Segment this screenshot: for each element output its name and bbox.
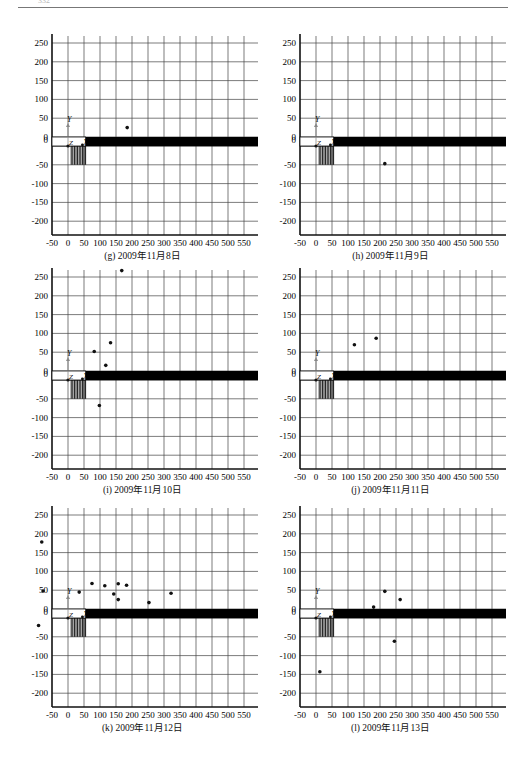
y-tick-label: 0 — [44, 135, 49, 145]
data-point — [398, 598, 402, 602]
x-tick-label: 200 — [373, 710, 387, 720]
y-tick-label: -50 — [36, 394, 48, 404]
x-tick-label: 150 — [357, 472, 371, 482]
chart-panel-j: YZX2502001501005000-50-100-150-200-50050… — [268, 264, 513, 504]
data-point — [120, 269, 124, 273]
y-tick-label: 100 — [283, 94, 297, 104]
pile-hatch — [319, 380, 333, 399]
data-point — [41, 589, 45, 593]
data-point — [98, 404, 102, 408]
scatter-plot: YZX2502001501005000-50-100-150-200-50050… — [268, 30, 513, 245]
x-tick-label: 0 — [66, 710, 71, 720]
origin-point — [66, 378, 69, 381]
chart-caption: (j) 2009年11月11日 — [268, 482, 513, 496]
x-tick-label: -50 — [294, 472, 306, 482]
x-tick-label: 450 — [205, 472, 219, 482]
y-tick-label: -100 — [280, 179, 297, 189]
z-axis-label: Z — [69, 611, 73, 619]
data-point — [125, 126, 129, 130]
y-tick-label: 50 — [287, 347, 297, 357]
z-axis-label: Z — [69, 139, 73, 147]
grid — [52, 508, 258, 707]
x-tick-label: 150 — [109, 238, 123, 248]
x-tick-label: 350 — [173, 238, 187, 248]
scatter-plot: YZX2502001501005000-50-100-150-200-50050… — [20, 502, 265, 717]
x-tick-label: 550 — [237, 710, 251, 720]
x-tick-label: 250 — [389, 472, 403, 482]
origin-point — [314, 144, 317, 147]
x-tick-label: 450 — [453, 472, 467, 482]
x-tick-label: 150 — [109, 710, 123, 720]
data-point — [125, 584, 129, 588]
y-tick-label: -50 — [284, 394, 296, 404]
y-axis-label: Y — [315, 115, 321, 124]
data-point — [383, 162, 387, 166]
x-tick-label: 200 — [125, 710, 139, 720]
data-point — [169, 591, 173, 595]
data-point — [318, 670, 322, 674]
x-tick-label: 500 — [469, 710, 483, 720]
y-tick-label: 50 — [287, 585, 297, 595]
x-tick-label: 0 — [314, 472, 319, 482]
y-tick-label: -200 — [32, 688, 49, 698]
x-tick-label: 250 — [141, 710, 155, 720]
origin-point — [329, 616, 332, 619]
y-tick-label: 100 — [283, 566, 297, 576]
pile-hatch — [319, 146, 333, 165]
data-points — [353, 336, 378, 346]
x-tick-label: 200 — [125, 238, 139, 248]
data-point — [383, 590, 387, 594]
x-tick-label: 100 — [93, 472, 107, 482]
x-tick-label: 100 — [341, 238, 355, 248]
y-tick-label: 50 — [287, 113, 297, 123]
y-tick-label: 200 — [283, 529, 297, 539]
x-tick-label: 50 — [328, 472, 338, 482]
x-tick-label: 200 — [125, 472, 139, 482]
origin-point — [81, 378, 84, 381]
origin-point — [314, 616, 317, 619]
x-tick-label: 150 — [357, 710, 371, 720]
x-tick-label: 0 — [314, 710, 319, 720]
chart-panel-g: YZX2502001501005000-50-100-150-200-50050… — [20, 30, 265, 270]
x-tick-label: 450 — [453, 710, 467, 720]
y-tick-label: 250 — [283, 38, 297, 48]
x-tick-label: 100 — [341, 710, 355, 720]
x-tick-label: 250 — [389, 238, 403, 248]
scatter-plot: YZX2502001501005000-50-100-150-200-50050… — [20, 30, 265, 245]
x-tick-label: 300 — [405, 472, 419, 482]
x-tick-label: 450 — [205, 238, 219, 248]
origin-point — [314, 378, 317, 381]
origin-point — [329, 144, 332, 147]
x-tick-label: 0 — [66, 472, 71, 482]
y-tick-label: -150 — [32, 431, 49, 441]
grid — [300, 508, 506, 707]
y-tick-label: 0 — [44, 607, 49, 617]
grid — [300, 36, 506, 235]
x-tick-label: 100 — [93, 238, 107, 248]
grid — [52, 36, 258, 235]
data-point — [92, 350, 96, 354]
data-point — [112, 592, 116, 596]
origin-point — [66, 144, 69, 147]
y-tick-label: -100 — [32, 179, 49, 189]
x-tick-label: 50 — [80, 710, 90, 720]
y-tick-label: 250 — [283, 272, 297, 282]
x-tick-label: 350 — [173, 710, 187, 720]
x-tick-label: 500 — [469, 238, 483, 248]
z-axis-label: Z — [317, 611, 321, 619]
y-tick-label: 50 — [39, 347, 49, 357]
x-tick-label: 350 — [421, 710, 435, 720]
y-tick-label: 0 — [44, 369, 49, 379]
y-axis-label: Y — [67, 587, 73, 596]
x-tick-label: 50 — [80, 472, 90, 482]
x-tick-label: 0 — [66, 238, 71, 248]
y-axis-label: Y — [315, 349, 321, 358]
y-tick-label: 0 — [292, 135, 297, 145]
x-tick-label: 550 — [485, 472, 499, 482]
chart-panel-h: YZX2502001501005000-50-100-150-200-50050… — [268, 30, 513, 270]
x-tick-label: -50 — [46, 710, 58, 720]
data-point — [40, 540, 44, 544]
y-tick-label: 200 — [283, 291, 297, 301]
header-rule — [18, 7, 508, 8]
data-points — [92, 269, 123, 408]
